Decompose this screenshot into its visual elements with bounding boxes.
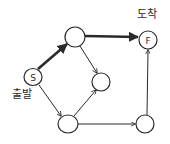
node-a — [65, 27, 85, 47]
node-f-letter: F — [145, 36, 150, 46]
edge-a-to-f — [85, 36, 138, 37]
edge-d-to-f — [147, 50, 148, 115]
node-d — [136, 115, 154, 133]
edge-c-to-b — [74, 90, 96, 116]
node-b — [92, 73, 110, 91]
edge-a-to-b — [80, 46, 97, 73]
graph-canvas: S F — [0, 0, 170, 144]
edge-s-to-c — [39, 85, 61, 116]
finish-label: 도착 — [137, 9, 157, 20]
graph-diagram: S F 도착 출발 — [0, 0, 170, 144]
node-s-letter: S — [30, 73, 36, 83]
start-label: 출발 — [12, 89, 32, 100]
node-f: F — [139, 31, 157, 49]
node-s: S — [24, 69, 42, 86]
edge-s-to-a — [38, 44, 67, 69]
node-c — [58, 115, 78, 133]
